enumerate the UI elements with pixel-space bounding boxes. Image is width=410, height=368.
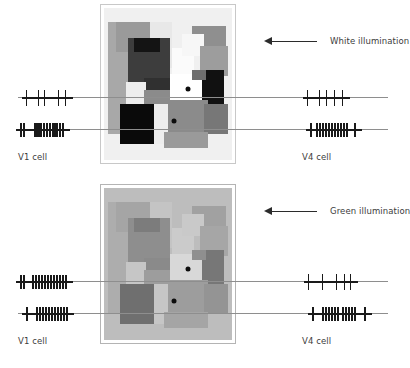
spike-tick [325, 307, 327, 321]
label-green-illumination: Green illumination [330, 206, 410, 216]
spike-tick [20, 123, 22, 137]
spike-tick [41, 275, 43, 289]
spike-tick [307, 90, 308, 106]
v4-recording-site [186, 267, 191, 272]
v1-recording-site [172, 119, 177, 124]
spike-tick [56, 275, 58, 289]
spike-tick [23, 275, 25, 289]
spike-tick [38, 275, 40, 289]
spike-tick [62, 275, 64, 289]
raster-green-right-lower [302, 304, 386, 324]
spike-tick [337, 123, 339, 137]
v1-recording-site [172, 299, 177, 304]
annotation-arrow-green [264, 206, 324, 216]
spike-tick [20, 275, 22, 289]
spike-tick [53, 275, 55, 289]
spike-tick [32, 275, 34, 289]
arrow-shaft [271, 41, 317, 42]
spike-tick [48, 307, 50, 321]
spike-tick [51, 307, 53, 321]
mondrian-patch [204, 284, 228, 314]
raster-green-left-lower [18, 304, 102, 324]
raster-white-left-upper [18, 88, 102, 108]
spike-tick [319, 90, 320, 106]
spike-tick [331, 123, 333, 137]
spike-tick [364, 307, 366, 321]
spike-tick [354, 307, 356, 321]
spike-tick [49, 123, 51, 137]
raster-white-right-lower [302, 120, 386, 140]
spike-tick [308, 274, 309, 290]
annotation-arrow-white [264, 36, 324, 46]
spike-tick [43, 123, 45, 137]
spike-tick [328, 123, 330, 137]
spike-tick [322, 274, 323, 290]
spike-tick [337, 307, 339, 321]
spike-tick [65, 275, 67, 289]
mondrian-patch [192, 250, 206, 260]
spike-tick [60, 307, 62, 321]
spike-tick [38, 90, 39, 106]
spike-tick [345, 307, 347, 321]
spike-tick [57, 307, 59, 321]
spike-tick [46, 123, 48, 137]
spike-tick [348, 307, 350, 321]
spike-tick [63, 307, 65, 321]
spike-tick [331, 307, 333, 321]
spike-tick [334, 90, 335, 106]
mondrian-patch [120, 104, 154, 144]
spike-tick [40, 123, 42, 137]
spike-tick [336, 274, 337, 290]
spike-tick [58, 90, 59, 106]
mondrian-patch [134, 38, 160, 52]
raster-white-right-upper [298, 88, 382, 108]
spike-tick [62, 123, 64, 137]
spike-tick [65, 90, 66, 106]
spike-tick [44, 275, 46, 289]
spike-tick [56, 123, 58, 137]
spike-tick [354, 123, 356, 137]
mondrian-white [104, 8, 232, 160]
spike-tick [328, 307, 330, 321]
spike-tick [351, 307, 353, 321]
mondrian-patch [164, 312, 208, 328]
spike-tick [342, 90, 343, 106]
label-v1-cell-green: V1 cell [18, 336, 47, 346]
raster-baseline [308, 313, 372, 315]
spike-tick [342, 307, 344, 321]
spike-tick [47, 275, 49, 289]
spike-tick [310, 123, 312, 137]
arrow-shaft [271, 211, 317, 212]
spike-tick [44, 90, 45, 106]
mondrian-patch [120, 284, 154, 324]
mondrian-patch [164, 132, 208, 148]
spike-tick [343, 123, 345, 137]
spike-tick [45, 307, 47, 321]
spike-tick [312, 307, 314, 321]
raster-green-left-upper [14, 272, 98, 292]
mondrian-patch [168, 280, 208, 314]
raster-green-right-upper [298, 272, 382, 292]
spike-tick [50, 275, 52, 289]
spike-tick [39, 307, 41, 321]
mondrian-patch [192, 70, 206, 80]
spike-tick [316, 123, 318, 137]
spike-tick [334, 307, 336, 321]
v4-recording-site [186, 87, 191, 92]
spike-tick [340, 123, 342, 137]
spike-tick [54, 307, 56, 321]
spike-tick [325, 123, 327, 137]
spike-tick [26, 90, 27, 106]
spike-tick [59, 123, 61, 137]
spike-tick [334, 123, 336, 137]
spike-tick [344, 274, 345, 290]
mondrian-green [104, 188, 232, 340]
spike-tick [350, 274, 351, 290]
spike-tick [326, 90, 327, 106]
label-v4-cell-white: V4 cell [302, 152, 331, 162]
mondrian-patch [134, 218, 160, 232]
spike-tick [42, 307, 44, 321]
label-v4-cell-green: V4 cell [302, 336, 331, 346]
spike-tick [66, 307, 68, 321]
spike-tick [322, 307, 324, 321]
